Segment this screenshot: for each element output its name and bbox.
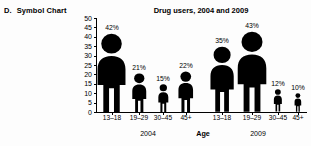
y-tick-label: 25 xyxy=(74,62,92,69)
y-tick-label: 15 xyxy=(74,80,92,87)
y-tick-label: 10 xyxy=(74,90,92,97)
y-tick-label-text: 30 xyxy=(74,52,92,59)
data-label: 35% xyxy=(215,37,229,44)
pictogram-symbol xyxy=(156,84,171,112)
x-tick-label: 30–45 xyxy=(269,114,287,122)
pictogram-symbol xyxy=(293,93,303,112)
plot-area: 05101520253035404550 42%21%15%22%35%43%1… xyxy=(0,0,311,146)
group-label: 2004 xyxy=(140,130,156,138)
x-tick-label: 13–18 xyxy=(213,114,231,122)
y-tick-label: 0 xyxy=(74,109,92,116)
y-tick-label: 45 xyxy=(74,24,92,31)
group-label: 2009 xyxy=(250,130,266,138)
y-tick-label-text: 5 xyxy=(74,99,92,106)
x-tick-label: 45+ xyxy=(292,114,303,122)
y-tick-label-text: 40 xyxy=(74,33,92,40)
y-tick-label: 50 xyxy=(74,15,92,22)
y-tick xyxy=(94,27,96,28)
data-label: 12% xyxy=(271,80,285,87)
data-label: 22% xyxy=(179,62,193,69)
y-tick-label-text: 0 xyxy=(74,109,92,116)
x-axis-line xyxy=(96,112,307,113)
x-tick-label: 19–29 xyxy=(130,114,148,122)
data-label: 42% xyxy=(105,24,119,31)
y-tick-label: 40 xyxy=(74,33,92,40)
x-tick-label: 19–29 xyxy=(243,114,261,122)
data-label: 10% xyxy=(291,84,305,91)
pictogram-symbol xyxy=(175,71,197,112)
y-tick-label: 20 xyxy=(74,71,92,78)
y-tick-label-text: 25 xyxy=(74,62,92,69)
x-axis-title: Age xyxy=(196,130,210,138)
data-label: 15% xyxy=(156,75,170,82)
y-tick xyxy=(94,112,96,113)
pictogram-symbol xyxy=(231,31,273,112)
y-tick-label: 35 xyxy=(74,43,92,50)
pictogram-symbol xyxy=(129,73,150,112)
y-tick-label-text: 10 xyxy=(74,90,92,97)
x-tick-label: 45+ xyxy=(180,114,191,122)
y-tick-label-text: 15 xyxy=(74,80,92,87)
x-tick-label: 30–45 xyxy=(154,114,172,122)
y-tick xyxy=(94,18,96,19)
y-tick-label-text: 20 xyxy=(74,71,92,78)
pictogram-symbol xyxy=(272,89,284,112)
y-tick-label: 30 xyxy=(74,52,92,59)
symbol-chart-figure: D.Symbol Chart Drug users, 2004 and 2009… xyxy=(0,0,311,146)
data-label: 21% xyxy=(132,64,146,71)
pictogram-symbol xyxy=(91,33,132,112)
y-tick-label-text: 50 xyxy=(74,15,92,22)
y-tick-label: 5 xyxy=(74,99,92,106)
x-tick-label: 13–18 xyxy=(103,114,121,122)
y-tick-label-text: 45 xyxy=(74,24,92,31)
data-label: 43% xyxy=(245,22,259,29)
y-tick-label-text: 35 xyxy=(74,43,92,50)
